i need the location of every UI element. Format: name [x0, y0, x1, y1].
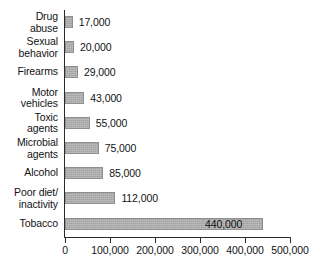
bar-value-label: 43,000 — [90, 92, 122, 104]
category-label: Poor diet/ inactivity — [0, 187, 58, 210]
bar-row: Alcohol85,000 — [0, 161, 320, 185]
bar — [65, 192, 115, 204]
bar — [65, 16, 73, 28]
x-axis-tick — [245, 238, 246, 243]
bar-value-label: 17,000 — [79, 16, 111, 28]
bar-value-label: 112,000 — [121, 192, 157, 204]
category-label: Alcohol — [0, 167, 58, 179]
bar-value-label: 75,000 — [105, 142, 137, 154]
category-label: Motor vehicles — [0, 86, 58, 109]
bar-value-label: 55,000 — [96, 117, 128, 129]
x-axis-line — [64, 237, 291, 238]
x-axis-tick — [290, 238, 291, 243]
x-axis-tick-label: 0 — [62, 244, 68, 256]
y-axis-line — [64, 10, 65, 238]
category-label: Toxic agents — [0, 111, 58, 134]
bar-value-label: 85,000 — [109, 167, 141, 179]
horizontal-bar-chart: Drug abuse17,000Sexual behavior20,000Fir… — [0, 0, 320, 261]
bar-row: Motor vehicles43,000 — [0, 86, 320, 110]
bar-row: Sexual behavior20,000 — [0, 35, 320, 59]
bar-value-label: 29,000 — [84, 66, 116, 78]
bar — [65, 41, 74, 53]
x-axis-tick-label: 300,000 — [181, 244, 218, 256]
x-axis-tick — [110, 238, 111, 243]
x-axis-tick-label: 500,000 — [271, 244, 308, 256]
bar-value-label: 440,000 — [205, 218, 242, 230]
bar — [65, 117, 90, 129]
bar — [65, 167, 103, 179]
x-axis-tick — [65, 238, 66, 243]
x-axis-tick-label: 100,000 — [91, 244, 128, 256]
bar-value-label: 20,000 — [80, 41, 112, 53]
category-label: Sexual behavior — [0, 36, 58, 59]
category-label: Drug abuse — [0, 11, 58, 34]
category-label: Firearms — [0, 67, 58, 79]
bar — [65, 142, 99, 154]
x-axis-tick — [155, 238, 156, 243]
bar-row: Firearms29,000 — [0, 60, 320, 84]
bar-row: Poor diet/ inactivity112,000 — [0, 186, 320, 210]
bar-row: Toxic agents55,000 — [0, 111, 320, 135]
bar-row: Microbial agents75,000 — [0, 136, 320, 160]
x-axis-tick-label: 200,000 — [136, 244, 173, 256]
category-label: Tobacco — [0, 218, 58, 230]
bar — [65, 66, 78, 78]
x-axis-tick-label: 400,000 — [226, 244, 263, 256]
bar — [65, 92, 84, 104]
bar-row: Tobacco440,000 — [0, 212, 320, 236]
category-label: Microbial agents — [0, 137, 58, 160]
x-axis-tick — [200, 238, 201, 243]
bar-row: Drug abuse17,000 — [0, 10, 320, 34]
